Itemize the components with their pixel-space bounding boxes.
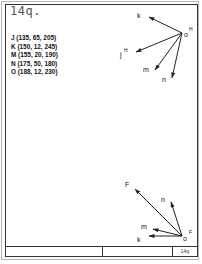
title-block: 14q.	[5, 246, 198, 257]
front-view: F n m k o F	[125, 181, 192, 243]
label-origin-top-sup: H	[189, 26, 193, 32]
label-f-front: F	[125, 181, 129, 188]
label-m-top: m	[143, 66, 149, 73]
label-m-front: m	[141, 223, 147, 230]
label-origin-front-sup: F	[189, 229, 192, 235]
label-origin-top: o	[184, 31, 188, 38]
top-view: k j H m n o H	[119, 12, 193, 83]
label-j-top-sup: H	[124, 47, 128, 53]
title-block-cell-1	[5, 247, 103, 257]
title-block-sheet-number: 14q.	[173, 247, 198, 257]
vector-m-front	[153, 229, 182, 236]
vector-k-top	[149, 17, 182, 33]
label-n-top: n	[162, 76, 166, 83]
vector-drawing: k j H m n o H F n m k o F	[0, 0, 202, 264]
label-k-front: k	[137, 236, 141, 243]
label-n-front: n	[161, 196, 165, 203]
label-k-top: k	[137, 12, 141, 19]
label-j-top: j	[119, 51, 122, 59]
title-block-cell-2	[103, 247, 173, 257]
label-origin-front: o	[183, 235, 187, 242]
